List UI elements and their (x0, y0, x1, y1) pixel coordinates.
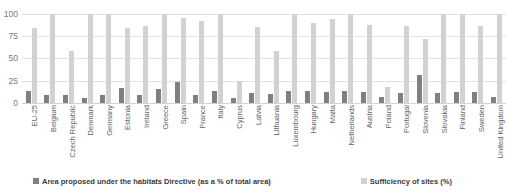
bar (88, 14, 93, 103)
x-label-cell: Slovakia (431, 104, 450, 166)
legend-item-sufficiency: Sufficiency of sites (%) (361, 177, 452, 186)
x-axis-label: Finland (459, 105, 467, 130)
x-label-cell: Greece (152, 104, 171, 166)
bar (404, 26, 409, 103)
x-label-cell: Latvia (245, 104, 264, 166)
bar-group (264, 14, 283, 103)
bar-group (394, 14, 413, 103)
bar (491, 97, 496, 103)
x-axis-label: United Kingdom (497, 105, 505, 158)
x-label-cell: Hungary (301, 104, 320, 166)
bars-container (22, 14, 506, 103)
bar-group (78, 14, 97, 103)
x-label-cell: Sweden (469, 104, 488, 166)
x-label-cell: Netherlands (338, 104, 357, 166)
bar-group (245, 14, 264, 103)
bar (311, 23, 316, 103)
bar-group (96, 14, 115, 103)
x-label-cell: EU-25 (22, 104, 41, 166)
x-label-cell: Denmark (78, 104, 97, 166)
legend-item-area-proposed: Area proposed under the habitats Directi… (33, 177, 271, 186)
bar-group (469, 14, 488, 103)
x-axis-label: Netherlands (348, 105, 356, 145)
x-label-cell: Austria (357, 104, 376, 166)
x-label-cell: Slovenia (413, 104, 432, 166)
bar (385, 87, 390, 103)
bar (497, 14, 502, 103)
chart-title-clipped (0, 0, 510, 7)
bar (50, 14, 55, 103)
bar-group (357, 14, 376, 103)
bar-group (134, 14, 153, 103)
x-axis-label: Portugal (403, 105, 411, 133)
x-axis-label: Belgium (50, 105, 58, 132)
bar (423, 39, 428, 103)
bar (218, 14, 223, 103)
bar (231, 98, 236, 103)
bar (143, 26, 148, 103)
x-axis-label: Luxembourg (292, 105, 300, 147)
x-axis-label: France (199, 105, 207, 128)
bar-group (450, 14, 469, 103)
x-axis-label: Latvia (255, 105, 263, 125)
bar-group (22, 14, 41, 103)
x-axis-label: Lithuania (273, 105, 281, 135)
x-axis-label: Italy (217, 105, 225, 119)
bar (249, 93, 254, 103)
bar (441, 14, 446, 103)
x-axis-label: Greece (162, 105, 170, 130)
bar (69, 51, 74, 104)
bar (367, 25, 372, 103)
bar-group (320, 14, 339, 103)
bar (44, 95, 49, 103)
bar (330, 19, 335, 103)
bar (212, 91, 217, 103)
bar (199, 21, 204, 103)
bar (32, 28, 37, 103)
x-axis-label: Denmark (87, 105, 95, 135)
bar (348, 14, 353, 103)
x-axis-label: Ireland (143, 105, 151, 128)
bar (137, 95, 142, 103)
bar (106, 14, 111, 103)
x-axis-label: Spain (180, 105, 188, 124)
bar-group (376, 14, 395, 103)
dark-swatch-icon (33, 178, 39, 184)
x-label-cell: Luxembourg (283, 104, 302, 166)
bar-group (431, 14, 450, 103)
bar-group (152, 14, 171, 103)
x-axis-label: Cyprus (236, 105, 244, 129)
bar (268, 94, 273, 103)
bar (100, 95, 105, 103)
x-axis-label: Estonia (124, 105, 132, 130)
x-axis-label: Germany (106, 105, 114, 136)
legend-label-area-proposed: Area proposed under the habitats Directi… (42, 177, 271, 186)
light-swatch-icon (361, 178, 367, 184)
bar (305, 91, 310, 103)
x-axis-label: Hungary (310, 105, 318, 133)
bar (454, 92, 459, 103)
bar (26, 91, 31, 103)
bar (342, 91, 347, 103)
bar-group (227, 14, 246, 103)
x-label-cell: Germany (96, 104, 115, 166)
bar-group (189, 14, 208, 103)
bar (478, 26, 483, 103)
y-tick-0: 0 (0, 99, 18, 107)
x-axis-label: Austria (366, 105, 374, 128)
bar (324, 92, 329, 103)
x-axis-label: EU-25 (31, 105, 39, 126)
bar (286, 91, 291, 103)
bar (472, 92, 477, 103)
x-axis-labels: EU-25BelgiumCzech RepublicDenmarkGermany… (22, 104, 506, 166)
bar-group (283, 14, 302, 103)
bar (274, 51, 279, 103)
bar-group (301, 14, 320, 103)
bar (63, 95, 68, 103)
x-label-cell: Czech Republic (59, 104, 78, 166)
x-label-cell: Estonia (115, 104, 134, 166)
bar (292, 14, 297, 103)
bar-group (208, 14, 227, 103)
chart-legend: Area proposed under the habitats Directi… (0, 174, 510, 188)
x-axis-label: Slovakia (441, 105, 449, 133)
